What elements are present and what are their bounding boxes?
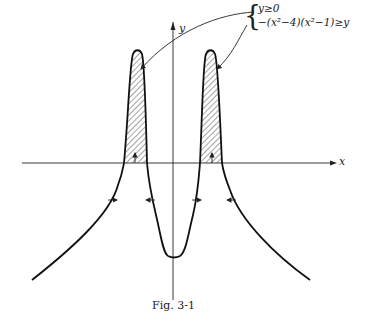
y-axis-arrow-icon: [171, 22, 176, 30]
condition-line-1: y≥0: [258, 2, 279, 14]
figure-caption: Fig. 3-1: [152, 299, 195, 312]
x-axis-label: x: [339, 155, 345, 168]
leader-arrow-right: [217, 25, 247, 69]
leader-arrow-left: [141, 12, 254, 69]
y-axis-label: y: [179, 22, 185, 35]
condition-line-2: −(x²−4)(x²−1)≥y: [258, 16, 349, 28]
curve: [32, 50, 310, 280]
diagram-canvas: [0, 0, 367, 326]
x-axis-arrow-icon: [330, 161, 337, 166]
